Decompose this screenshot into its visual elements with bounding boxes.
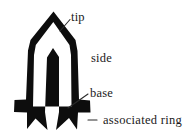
figure-container: tip side base associated ring: [0, 0, 195, 138]
artifact-diagram: tip side base associated ring: [0, 0, 195, 138]
label-base: base: [90, 86, 113, 100]
label-side: side: [91, 51, 112, 65]
label-tip: tip: [71, 10, 85, 24]
label-associated-ring: associated ring: [103, 113, 183, 127]
